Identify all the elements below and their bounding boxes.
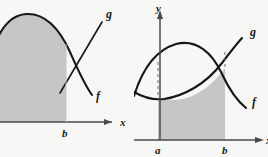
left-panel: g f b x xyxy=(0,0,134,157)
curve-label-g-right: g xyxy=(249,25,256,39)
figure-container: g f b x xyxy=(0,0,268,157)
curve-label-f-left: f xyxy=(96,89,101,103)
curve-label-f-right: f xyxy=(252,95,257,109)
right-panel: y g f a b x xyxy=(134,0,268,157)
tick-label-b-right: b xyxy=(222,144,228,156)
right-panel-svg: y g f a b x xyxy=(134,0,268,157)
tick-label-b-left: b xyxy=(62,127,68,139)
x-axis-label-right: x xyxy=(265,134,268,146)
y-axis-label-right: y xyxy=(154,2,161,14)
x-axis-arrow-left xyxy=(104,119,112,125)
left-panel-svg: g f b x xyxy=(0,0,134,157)
curve-g-right xyxy=(134,38,242,99)
right-shaded-region xyxy=(158,68,225,140)
x-axis-label-left: x xyxy=(119,116,126,128)
x-axis-arrow-right xyxy=(255,137,264,143)
tick-label-a-right: a xyxy=(155,144,161,156)
curve-label-g-left: g xyxy=(105,7,112,21)
